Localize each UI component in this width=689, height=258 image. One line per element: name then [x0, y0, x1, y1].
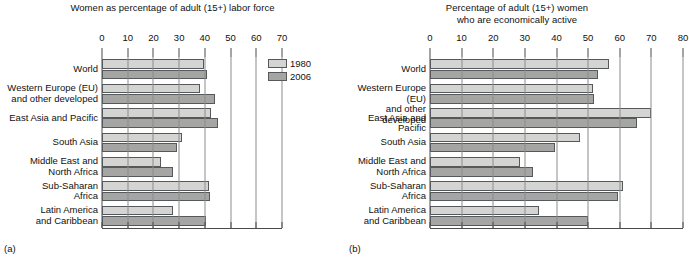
legend-swatch-2006	[268, 72, 287, 81]
chart-title-b-line1: Percentage of adult (15+) women	[446, 2, 588, 13]
x-tick-bottom-10	[461, 222, 462, 228]
chart-title-b-line2: who are economically active	[345, 14, 689, 26]
category-label: Middle East and North Africa	[344, 156, 430, 177]
x-tick-60	[619, 48, 620, 57]
x-tick-bottom-60	[619, 222, 620, 228]
x-tick-30	[524, 48, 525, 57]
bar-2006[interactable]	[430, 167, 533, 177]
gridline-30	[179, 57, 180, 228]
x-tick-10	[127, 48, 128, 57]
category-label: East Asia and Pacific	[344, 113, 430, 134]
category-label: South Asia	[344, 137, 430, 148]
x-tick-label-20: 20	[488, 33, 499, 43]
x-tick-50	[230, 48, 231, 57]
x-tick-bottom-50	[588, 222, 589, 228]
x-tick-60	[256, 48, 257, 57]
x-tick-label-30: 30	[174, 33, 185, 43]
x-tick-40	[556, 48, 557, 57]
x-tick-label-70: 70	[277, 33, 288, 43]
gridline-60	[619, 57, 620, 228]
x-tick-70	[282, 48, 283, 57]
x-tick-10	[461, 48, 462, 57]
x-tick-bottom-40	[556, 222, 557, 228]
x-tick-label-10: 10	[122, 33, 133, 43]
bar-2006[interactable]	[430, 70, 598, 80]
bar-2006[interactable]	[102, 192, 210, 202]
chart-panel-b: Percentage of adult (15+) women who are …	[345, 0, 689, 258]
x-tick-40	[204, 48, 205, 57]
x-tick-bottom-20	[153, 222, 154, 228]
panel-tag-a: (a)	[4, 243, 16, 254]
category-label: Sub-Saharan Africa	[344, 181, 430, 202]
bar-1980[interactable]	[430, 84, 593, 94]
x-tick-bottom-10	[127, 222, 128, 228]
category-label: Middle East and North Africa	[0, 156, 102, 177]
gridline-10	[127, 57, 128, 228]
category-label: World	[0, 64, 102, 75]
x-tick-70	[651, 48, 652, 57]
x-tick-label-10: 10	[456, 33, 467, 43]
x-tick-label-20: 20	[148, 33, 159, 43]
category-label: World	[344, 64, 430, 75]
bar-1980[interactable]	[430, 181, 623, 191]
bar-2006[interactable]	[102, 216, 206, 226]
legend-item-2006[interactable]: 2006	[268, 71, 311, 82]
bar-1980[interactable]	[430, 108, 651, 118]
category-label: Latin America and Caribbean	[0, 205, 102, 226]
chart-panel-a: Women as percentage of adult (15+) labor…	[0, 0, 345, 258]
x-tick-20	[153, 48, 154, 57]
bar-2006[interactable]	[102, 143, 177, 153]
x-tick-label-60: 60	[614, 33, 625, 43]
bar-1980[interactable]	[430, 157, 520, 167]
bar-1980[interactable]	[102, 181, 209, 191]
category-label: Latin America and Caribbean	[344, 205, 430, 226]
bar-1980[interactable]	[102, 133, 182, 143]
x-tick-bottom-40	[204, 222, 205, 228]
gridline-80	[683, 57, 684, 228]
bar-2006[interactable]	[102, 94, 215, 104]
x-tick-label-40: 40	[551, 33, 562, 43]
bar-2006[interactable]	[102, 167, 173, 177]
legend-swatch-1980	[268, 59, 287, 68]
x-tick-label-0: 0	[427, 33, 432, 43]
x-tick-label-30: 30	[520, 33, 531, 43]
category-label: Western Europe (EU) and other developed	[0, 83, 102, 104]
x-axis-bottom-spine	[430, 228, 683, 229]
gridline-60	[256, 57, 257, 228]
plot-area-a: 010203040506070 WorldWestern Europe (EU)…	[102, 48, 282, 228]
x-tick-bottom-50	[230, 222, 231, 228]
bar-2006[interactable]	[102, 70, 207, 80]
chart-title-b: Percentage of adult (15+) women who are …	[345, 2, 689, 26]
bar-2006[interactable]	[102, 118, 218, 128]
x-tick-label-60: 60	[251, 33, 262, 43]
x-tick-30	[179, 48, 180, 57]
bar-1980[interactable]	[430, 206, 539, 216]
bar-1980[interactable]	[430, 59, 609, 69]
bar-1980[interactable]	[102, 84, 200, 94]
bar-1980[interactable]	[102, 206, 173, 216]
bar-1980[interactable]	[102, 108, 211, 118]
x-tick-bottom-0	[102, 222, 103, 228]
category-label: Sub-Saharan Africa	[0, 181, 102, 202]
x-tick-label-50: 50	[583, 33, 594, 43]
gridline-30	[524, 57, 525, 228]
chart-title-a-line1: Women as percentage of adult (15+) labor…	[70, 2, 274, 13]
gridline-40	[204, 57, 205, 228]
x-tick-label-40: 40	[200, 33, 211, 43]
bar-2006[interactable]	[430, 216, 588, 226]
x-tick-bottom-70	[651, 222, 652, 228]
bar-1980[interactable]	[430, 133, 580, 143]
plot-area-b: 01020304050607080 WorldWestern Europe (E…	[430, 48, 683, 228]
x-tick-bottom-0	[430, 222, 431, 228]
x-tick-50	[588, 48, 589, 57]
x-tick-label-80: 80	[678, 33, 689, 43]
x-tick-bottom-20	[493, 222, 494, 228]
category-label: South Asia	[0, 137, 102, 148]
legend-item-1980[interactable]: 1980	[268, 58, 311, 69]
legend-label-2006: 2006	[290, 72, 311, 82]
bar-2006[interactable]	[430, 94, 594, 104]
gridline-20	[493, 57, 494, 228]
x-tick-bottom-30	[179, 222, 180, 228]
x-tick-80	[683, 48, 684, 57]
gridline-40	[556, 57, 557, 228]
